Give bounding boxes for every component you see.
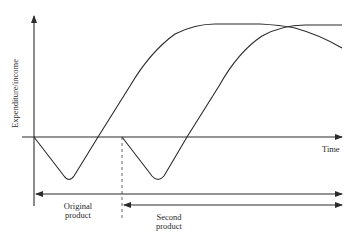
original-product-curve [34,24,342,180]
second-product-label-2: product [156,221,183,231]
product-lifecycle-diagram: Expenditure/income Time Original product… [0,0,356,242]
second-product-curve [122,25,342,180]
y-axis-label: Expenditure/income [10,59,20,128]
original-product-label-2: product [65,210,92,220]
x-axis-label: Time [322,144,340,154]
